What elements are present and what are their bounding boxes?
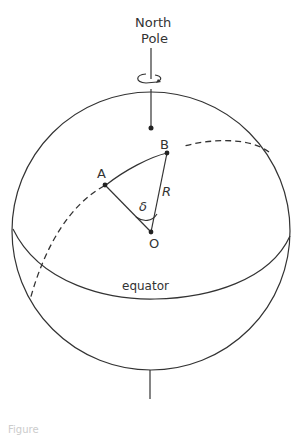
great-circle-dashed-left [30, 186, 104, 300]
point-a-label: A [97, 166, 106, 181]
north-pole-point [149, 126, 154, 131]
point-a [103, 183, 108, 188]
figure-caption: Figure [8, 424, 39, 435]
arc-ab [106, 153, 167, 185]
angle-label: δ [139, 199, 147, 214]
north-pole-label-line1: North [135, 15, 171, 30]
radius-label: R [162, 184, 171, 199]
rotation-arrow-icon [138, 74, 157, 83]
point-o [149, 230, 154, 235]
great-circle-dashed-right [184, 141, 269, 152]
equator-label: equator [122, 279, 169, 293]
point-o-label: O [149, 236, 159, 251]
point-b-label: B [160, 137, 169, 152]
north-pole-label-line2: Pole [141, 31, 168, 46]
